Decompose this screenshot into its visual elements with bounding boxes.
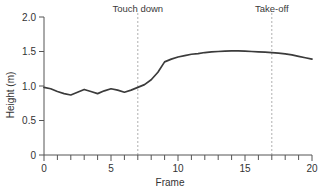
x-tick-label-0: 0 <box>41 163 47 174</box>
x-tick-label-3: 15 <box>239 163 251 174</box>
y-tick-label-3: 1.5 <box>22 46 36 57</box>
y-tick-label-4: 2.0 <box>22 12 36 23</box>
annotation-labels-group: Touch downTake-off <box>112 3 289 14</box>
y-tick-label-0: 0 <box>30 150 36 161</box>
x-tick-label-2: 10 <box>172 163 184 174</box>
y-tick-label-2: 1.0 <box>22 81 36 92</box>
x-axis-group: 05101520 <box>41 155 318 174</box>
height-vs-frame-chart: 00.51.01.52.0 05101520 Touch downTake-of… <box>0 0 325 193</box>
annotation-lines-group <box>138 13 272 155</box>
annotation-label-1: Take-off <box>255 3 289 14</box>
y-axis-group: 00.51.01.52.0 <box>22 12 44 161</box>
x-tick-label-1: 5 <box>108 163 114 174</box>
x-axis-title: Frame <box>156 177 185 188</box>
chart-canvas: 00.51.01.52.0 05101520 Touch downTake-of… <box>0 0 325 193</box>
y-tick-label-1: 0.5 <box>22 115 36 126</box>
y-axis-title: Height (m) <box>5 72 16 119</box>
x-tick-label-4: 20 <box>306 163 318 174</box>
annotation-label-0: Touch down <box>112 3 163 14</box>
